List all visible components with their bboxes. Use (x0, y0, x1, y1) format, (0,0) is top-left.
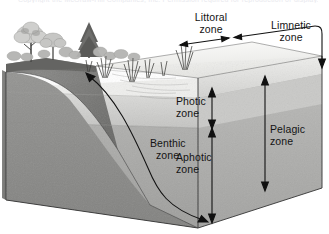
label-limnetic-line2: zone (262, 32, 320, 44)
littoral-span-arrow (180, 36, 229, 46)
label-pelagic-line2: zone (270, 136, 305, 148)
lake-zonation-figure: Copyright the McGraw-Hill Companies, Inc… (0, 0, 329, 234)
label-littoral-line2: zone (184, 24, 238, 36)
label-pelagic-line1: Pelagic (270, 124, 305, 136)
label-limnetic-zone: Limnetic zone (262, 20, 320, 43)
label-littoral-line1: Littoral (184, 12, 238, 24)
label-limnetic-line1: Limnetic (262, 20, 320, 32)
label-photic-line1: Photic (176, 96, 206, 108)
label-aphotic-line2: zone (176, 164, 212, 176)
label-benthic-line1: Benthic (150, 138, 186, 150)
label-pelagic-zone: Pelagic zone (270, 124, 305, 147)
label-benthic-line2: zone (156, 150, 186, 162)
label-benthic-zone: Benthic zone (150, 138, 186, 161)
label-photic-line2: zone (176, 108, 206, 120)
label-photic-zone: Photic zone (176, 96, 206, 119)
label-littoral-zone: Littoral zone (184, 12, 238, 35)
